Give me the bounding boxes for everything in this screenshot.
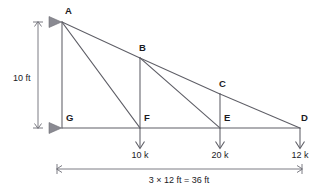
node-labels: A B C D E F G — [65, 5, 308, 123]
member-A-B — [62, 22, 140, 58]
node-label-G: G — [66, 112, 73, 123]
supports — [49, 17, 62, 134]
dimension-span: 3 × 12 ft = 36 ft — [57, 164, 303, 185]
member-C-D — [220, 94, 300, 128]
dimension-label-height: 10 ft — [13, 73, 31, 83]
node-label-A: A — [65, 5, 72, 16]
truss-diagram: A B C D E F G 10 k 20 k 12 k 10 ft — [0, 0, 324, 188]
node-label-E: E — [224, 112, 230, 123]
dimension-label-span: 3 × 12 ft = 36 ft — [149, 175, 210, 185]
node-label-B: B — [139, 42, 146, 53]
load-arrows — [136, 128, 305, 149]
load-label-E: 20 k — [211, 150, 229, 160]
member-A-F — [62, 22, 140, 128]
node-label-F: F — [144, 112, 150, 123]
truss-svg: A B C D E F G 10 k 20 k 12 k 10 ft — [0, 0, 324, 188]
member-B-E — [140, 58, 220, 128]
truss-members — [62, 22, 300, 128]
load-label-D: 12 k — [291, 150, 309, 160]
dimension-height: 10 ft — [13, 22, 43, 129]
support-pin-icon-G — [49, 123, 62, 134]
load-label-F: 10 k — [131, 150, 149, 160]
load-arrow-E — [216, 128, 225, 149]
node-label-C: C — [219, 78, 226, 89]
load-labels: 10 k 20 k 12 k — [131, 150, 309, 160]
load-arrow-D — [296, 128, 305, 149]
load-arrow-F — [136, 128, 145, 149]
node-label-D: D — [301, 112, 308, 123]
member-B-C — [140, 58, 220, 94]
support-pin-icon-A — [49, 17, 62, 28]
